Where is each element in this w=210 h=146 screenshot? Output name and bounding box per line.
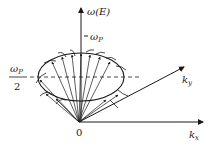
radial-vectors (40, 54, 118, 122)
half-omega-numerator: ωP (10, 63, 23, 76)
kx-label: kx (189, 129, 199, 142)
ky-label: ky (182, 74, 193, 87)
omega-axis-label: ω(E) (87, 6, 110, 17)
tangent-strokes (36, 50, 128, 108)
omega-p-label: ωP (90, 31, 103, 44)
ky-axis (79, 67, 184, 122)
half-omega-denominator: 2 (14, 81, 20, 92)
origin-label: 0 (76, 127, 82, 138)
dispersion-cone-diagram: ω(E) ωP ωP 2 0 kx ky (0, 0, 210, 146)
